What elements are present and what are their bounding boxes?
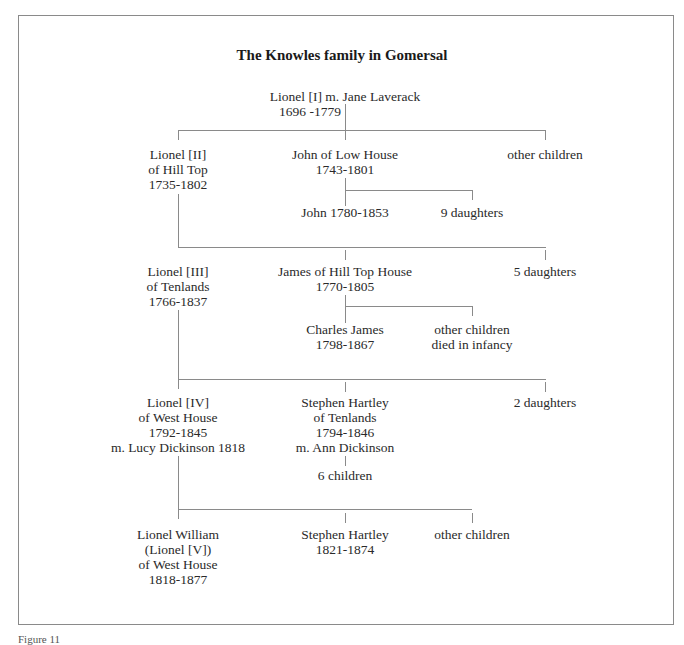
node-6-children: 6 children — [318, 468, 372, 483]
sibling-bar-gen2 — [178, 130, 546, 131]
connector — [178, 194, 179, 248]
connector — [345, 178, 346, 206]
connector — [345, 382, 346, 392]
node-lionel-ii: Lionel [II]of Hill Top1735-1802 — [148, 147, 208, 192]
sibling-bar-gen4 — [178, 379, 546, 380]
connector — [345, 104, 346, 130]
node-2-daughters: 2 daughters — [514, 395, 577, 410]
node-lionel-i-dates: 1696 -1779 — [279, 104, 341, 119]
connector — [178, 130, 179, 140]
connector — [472, 190, 473, 200]
node-james-hill-top-house: James of Hill Top House1770-1805 — [278, 264, 412, 294]
connector — [545, 382, 546, 392]
connector — [545, 130, 546, 140]
connector — [178, 310, 179, 380]
connector — [345, 513, 346, 523]
node-john-1780: John 1780-1853 — [301, 205, 388, 220]
node-other-children-infancy: other childrendied in infancy — [432, 322, 513, 352]
node-stephen-hartley-1821: Stephen Hartley1821-1874 — [301, 527, 388, 557]
node-other-children-gen5: other children — [434, 527, 509, 542]
node-lionel-william: Lionel William(Lionel [V])of West House1… — [137, 527, 219, 587]
node-lionel-i: Lionel [I] m. Jane Laverack — [270, 89, 420, 104]
diagram-title: The Knowles family in Gomersal — [0, 47, 684, 64]
node-lionel-iv: Lionel [IV]of West House1792-1845m. Lucy… — [111, 395, 245, 455]
sibling-bar-gen3 — [178, 247, 546, 248]
sibling-bar-gen5 — [178, 509, 472, 510]
connector — [178, 379, 179, 389]
connector — [345, 295, 346, 323]
node-other-children-gen2: other children — [507, 147, 582, 162]
sibling-bar-john — [345, 190, 472, 191]
sibling-bar-james — [345, 306, 472, 307]
node-stephen-hartley-tenlands: Stephen Hartleyof Tenlands1794-1846m. An… — [296, 395, 395, 455]
connector — [345, 456, 346, 466]
connector — [345, 130, 346, 140]
connector — [472, 513, 473, 523]
connector — [178, 456, 179, 510]
connector — [178, 509, 179, 519]
connector — [472, 306, 473, 316]
node-9-daughters: 9 daughters — [441, 205, 504, 220]
connector — [345, 250, 346, 260]
connector — [545, 250, 546, 260]
figure-caption: Figure 11 — [18, 633, 60, 645]
node-5-daughters: 5 daughters — [514, 264, 577, 279]
node-john-low-house: John of Low House1743-1801 — [292, 147, 398, 177]
node-charles-james: Charles James1798-1867 — [306, 322, 384, 352]
node-lionel-iii: Lionel [III]of Tenlands1766-1837 — [147, 264, 210, 309]
